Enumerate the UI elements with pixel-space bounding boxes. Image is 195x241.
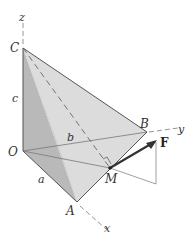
label-dimension-a: a (38, 173, 45, 186)
label-dimension-b: b (67, 131, 74, 144)
label-point-b: B (139, 117, 149, 131)
label-point-c: C (10, 41, 19, 55)
label-point-m: M (104, 172, 118, 186)
tetrahedron-diagram: z y x C O A B M c b a F (0, 0, 195, 241)
y-axis (149, 128, 178, 132)
label-z-axis: z (18, 11, 25, 24)
x-axis (80, 206, 106, 229)
label-force-f: F (160, 136, 169, 150)
label-point-o: O (8, 145, 18, 159)
point-m (108, 166, 112, 170)
label-y-axis: y (177, 123, 185, 136)
label-x-axis: x (104, 222, 111, 235)
force-arrow-head (146, 140, 157, 149)
label-point-a: A (65, 204, 75, 218)
label-dimension-c: c (12, 92, 18, 105)
